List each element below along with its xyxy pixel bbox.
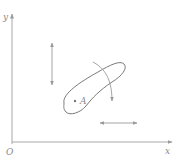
origin-label: O [6, 147, 14, 157]
point-a-label: A [79, 96, 87, 106]
point-a-dot [74, 100, 76, 102]
region [64, 63, 125, 114]
y-axis-label: y [2, 12, 9, 22]
diagram-canvas: y x O A [0, 0, 182, 162]
x-axis-label: x [165, 146, 170, 156]
